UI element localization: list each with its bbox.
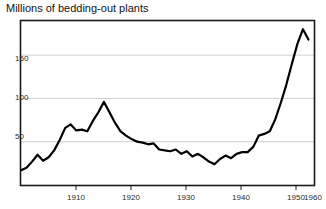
ytick-label-50: 50 — [15, 132, 24, 141]
xtick-label-1920: 1920 — [122, 193, 140, 202]
xtick-label-1930: 1930 — [177, 193, 195, 202]
line-chart-plot: 1910 1920 1930 1940 1950 1960 50 100 150 — [0, 0, 326, 209]
ytick-label-150: 150 — [15, 54, 29, 63]
xtick-label-1960: 1960 — [304, 193, 322, 202]
chart-figure: Millions of bedding-out plants 1910 1920… — [0, 0, 326, 209]
xtick-label-1910: 1910 — [67, 193, 85, 202]
xtick-label-1950: 1950 — [287, 193, 305, 202]
data-series-line — [21, 29, 308, 170]
xtick-label-1940: 1940 — [232, 193, 250, 202]
ytick-label-100: 100 — [15, 93, 29, 102]
plot-frame — [21, 21, 315, 186]
